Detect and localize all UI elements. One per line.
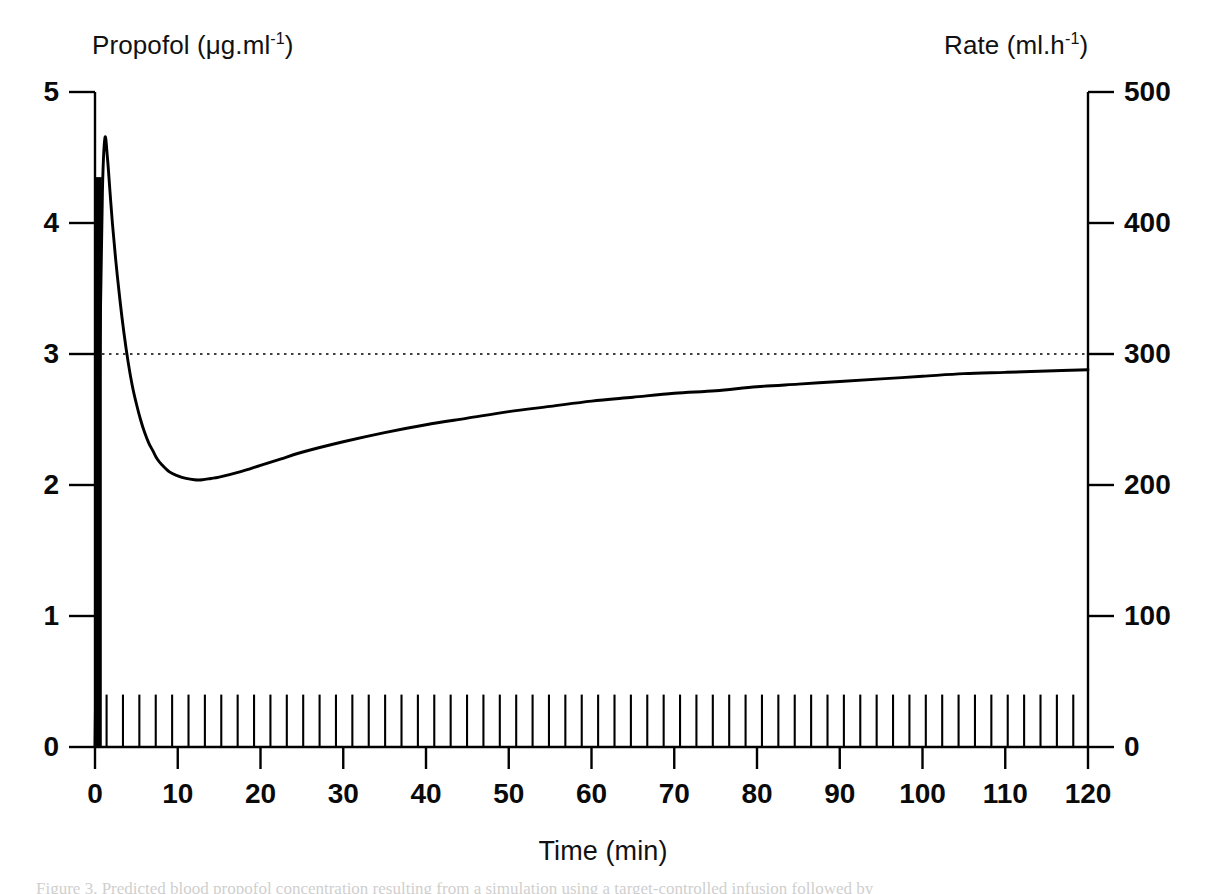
x-axis-tick-label: 110 bbox=[983, 780, 1028, 808]
right-axis-tick-label: 400 bbox=[1124, 209, 1171, 237]
right-axis-tick-label: 100 bbox=[1124, 602, 1171, 630]
x-axis-tick-label: 120 bbox=[1065, 780, 1112, 808]
x-axis-tick-label: 10 bbox=[162, 780, 193, 808]
x-axis-tick-label: 30 bbox=[328, 780, 359, 808]
x-axis-tick-label: 0 bbox=[87, 780, 103, 808]
x-axis-tick-label: 90 bbox=[824, 780, 855, 808]
right-axis-tick-label: 300 bbox=[1124, 340, 1171, 368]
left-axis-tick-label: 0 bbox=[43, 733, 59, 761]
x-axis-tick-label: 80 bbox=[741, 780, 772, 808]
x-axis-tick-label: 60 bbox=[576, 780, 607, 808]
x-axis-tick-label: 20 bbox=[245, 780, 276, 808]
left-axis-tick-label: 1 bbox=[43, 602, 59, 630]
x-axis-tick-label: 40 bbox=[410, 780, 441, 808]
infusion-rate-bars bbox=[107, 695, 1074, 747]
right-axis-tick-label: 200 bbox=[1124, 471, 1171, 499]
left-axis-tick-label: 3 bbox=[43, 340, 59, 368]
right-axis-tick-label: 500 bbox=[1124, 78, 1171, 106]
left-axis-tick-label: 5 bbox=[43, 78, 59, 106]
left-axis-tick-label: 4 bbox=[43, 209, 59, 237]
figure-caption-partial: Figure 3. Predicted blood propofol conce… bbox=[0, 879, 1206, 894]
propofol-concentration-curve bbox=[95, 137, 1088, 747]
left-axis-tick-label: 2 bbox=[43, 471, 59, 499]
x-axis-tick-label: 70 bbox=[659, 780, 690, 808]
right-axis-tick-label: 0 bbox=[1124, 733, 1140, 761]
plot-area bbox=[0, 0, 1206, 894]
figure-container: Propofol (μg.ml-1) Rate (ml.h-1) Time (m… bbox=[0, 0, 1206, 894]
x-axis-tick-label: 50 bbox=[493, 780, 524, 808]
x-axis-tick-label: 100 bbox=[899, 780, 946, 808]
